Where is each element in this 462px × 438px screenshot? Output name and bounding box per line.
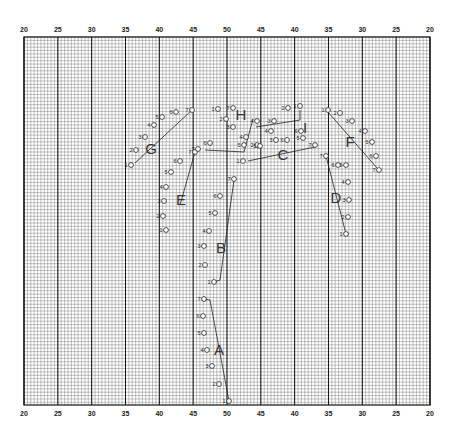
data-point-label: 2 — [341, 214, 344, 220]
axis-tick-label: 25 — [392, 26, 400, 33]
data-point-marker — [202, 331, 207, 336]
axis-tick-label: 25 — [392, 410, 400, 417]
data-point-marker — [346, 215, 351, 220]
axis-tick-label: 40 — [155, 410, 163, 417]
data-point-marker — [213, 211, 218, 216]
data-point-label: 5 — [253, 143, 256, 149]
data-point-label: 6 — [294, 128, 297, 134]
data-point-marker — [363, 129, 368, 134]
axis-tick-label: 30 — [88, 410, 96, 417]
data-point-label: 3 — [197, 243, 200, 249]
group-label: G — [145, 140, 157, 157]
data-point-label: 5 — [164, 169, 167, 175]
group-label: A — [214, 341, 224, 358]
data-point-label: 2 — [219, 116, 222, 122]
data-point-marker — [208, 141, 213, 146]
axis-tick-label: 45 — [257, 410, 265, 417]
data-point-label: 6 — [213, 193, 216, 199]
data-point-label: 6 — [203, 140, 206, 146]
data-point-label: 3 — [345, 118, 348, 124]
data-point-marker — [347, 198, 352, 203]
axis-tick-label: 20 — [426, 410, 434, 417]
data-point-label: 5 — [365, 139, 368, 145]
group-a: 1234567A — [196, 296, 231, 404]
axis-tick-label: 35 — [122, 26, 130, 33]
data-point-marker — [242, 143, 247, 148]
axis-tick-label: 20 — [20, 26, 28, 33]
data-point-marker — [152, 123, 157, 128]
data-point-marker — [255, 119, 260, 124]
group-label: I — [303, 119, 307, 136]
data-point-marker — [326, 108, 331, 113]
data-point-label: 4 — [239, 134, 242, 140]
axis-tick-label: 45 — [257, 26, 265, 33]
data-point-label: 5 — [208, 210, 211, 216]
data-point-marker — [346, 180, 351, 185]
axis-tick-label: 40 — [291, 26, 299, 33]
data-point-label: 7 — [372, 167, 375, 173]
data-point-label: 1 — [159, 227, 162, 233]
data-point-label: 1 — [293, 103, 296, 109]
data-point-marker — [224, 117, 229, 122]
data-point-label: 4 — [159, 184, 162, 190]
data-point-label: 4 — [200, 347, 203, 353]
data-point-label: 6 — [369, 153, 372, 159]
axis-tick-label: 40 — [155, 26, 163, 33]
axis-tick-label: 35 — [122, 410, 130, 417]
data-point-label: 6 — [280, 137, 283, 143]
data-point-marker — [350, 119, 355, 124]
data-point-marker — [202, 244, 207, 249]
data-point-marker — [190, 108, 195, 113]
group-connector-line — [256, 110, 300, 127]
data-point-marker — [244, 135, 249, 140]
data-point-label: 7 — [308, 142, 311, 148]
data-point-marker — [201, 314, 206, 319]
group-label: F — [345, 133, 354, 150]
axis-tick-label: 25 — [54, 26, 62, 33]
group-label: D — [331, 189, 342, 206]
axis-tick-label: 35 — [325, 410, 333, 417]
axis-tick-label: 30 — [358, 410, 366, 417]
data-point-label: 6 — [169, 109, 172, 115]
data-point-label: 7 — [226, 105, 229, 111]
data-point-label: 2 — [129, 147, 132, 153]
data-point-marker — [285, 138, 290, 143]
group-label: B — [216, 239, 226, 256]
axis-tick-label: 45 — [189, 26, 197, 33]
data-point-marker — [212, 280, 217, 285]
data-point-label: 7 — [185, 107, 188, 113]
data-point-marker — [269, 129, 274, 134]
data-point-marker — [205, 348, 210, 353]
axis-tick-label: 40 — [291, 410, 299, 417]
data-point-label: 1 — [339, 231, 342, 237]
data-point-label: 3 — [205, 363, 208, 369]
axis-tick-label: 20 — [426, 26, 434, 33]
data-point-label: 5 — [296, 135, 299, 141]
data-point-label: 1 — [124, 162, 127, 168]
axis-tick-label: 30 — [358, 26, 366, 33]
data-point-marker — [313, 143, 318, 148]
data-point-marker — [301, 136, 306, 141]
data-point-marker — [227, 399, 232, 404]
data-point-label: 6 — [196, 313, 199, 319]
data-point-label: 6 — [173, 158, 176, 164]
data-point-label: 3 — [226, 124, 229, 130]
data-point-marker — [232, 177, 237, 182]
data-point-marker — [129, 163, 134, 168]
data-point-marker — [143, 135, 148, 140]
top-axis-labels: 20253035404550454035302520 — [20, 26, 434, 33]
data-point-marker — [164, 228, 169, 233]
data-point-marker — [218, 194, 223, 199]
data-point-marker — [161, 214, 166, 219]
data-point-label: 5 — [197, 330, 200, 336]
data-point-marker — [202, 297, 207, 302]
data-point-marker — [374, 154, 379, 159]
group-label: H — [236, 106, 247, 123]
data-point-label: 2 — [156, 213, 159, 219]
data-point-marker — [286, 106, 291, 111]
data-point-marker — [241, 159, 246, 164]
data-point-marker — [196, 147, 201, 152]
group-label: C — [278, 146, 289, 163]
axis-tick-label: 50 — [223, 410, 231, 417]
data-point-marker — [203, 263, 208, 268]
